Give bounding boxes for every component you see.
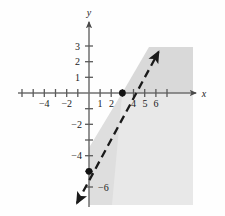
point-y-intercept <box>86 168 93 175</box>
x-tick-label--2: −2 <box>61 98 72 109</box>
y-tick-label--4: −4 <box>71 150 82 161</box>
x-tick-label-6: 6 <box>154 98 159 109</box>
x-tick-label-4: 4 <box>131 98 136 109</box>
y-axis-label: y <box>86 7 92 18</box>
y-tick-label-1: 1 <box>75 72 80 83</box>
y-tick-label--2: −2 <box>71 119 82 130</box>
coordinate-plane-svg: −4 −2 1 2 4 5 6 3 2 1 −2 −4 −6 x y <box>0 0 225 216</box>
x-tick-label-2: 2 <box>109 98 114 109</box>
y-tick-label-3: 3 <box>75 41 80 52</box>
x-tick-label-1: 1 <box>98 98 103 109</box>
y-tick-label-2: 2 <box>75 56 80 67</box>
x-axis-label: x <box>201 88 207 99</box>
graph-figure: −4 −2 1 2 4 5 6 3 2 1 −2 −4 −6 x y <box>0 0 225 216</box>
x-tick-label--4: −4 <box>39 98 50 109</box>
y-tick-label--6: −6 <box>98 182 109 193</box>
point-x-intercept <box>119 90 126 97</box>
x-tick-label-5: 5 <box>142 98 147 109</box>
